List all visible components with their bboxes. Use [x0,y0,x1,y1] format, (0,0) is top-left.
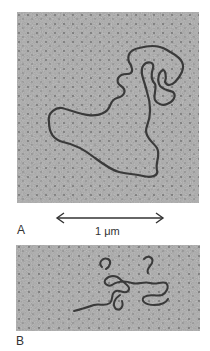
panel-a-label: A [17,223,25,237]
micrograph-panel-a [17,12,199,203]
panel-b-label: B [16,334,24,348]
dna-micrograph-a [17,12,199,203]
scale-bar-arrow-icon [55,211,165,225]
scale-bar-label: 1 μm [95,225,120,237]
dna-micrograph-b [16,245,200,331]
micrograph-panel-b [16,245,200,331]
